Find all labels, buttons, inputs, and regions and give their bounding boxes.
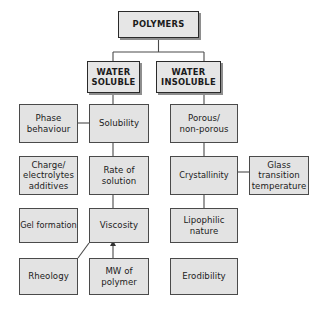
node-gel-formation[interactable]: Gel formation bbox=[19, 208, 78, 243]
node-porous-non-porous[interactable]: Porous/ non-porous bbox=[170, 104, 238, 143]
flowchart-diagram: POLYMERS WATER SOLUBLE WATER INSOLUBLE P… bbox=[0, 0, 317, 312]
node-polymers[interactable]: POLYMERS bbox=[118, 11, 199, 38]
node-crystallinity-label: Crystallinity bbox=[179, 170, 228, 181]
node-charge-electrolytes-additives[interactable]: Charge/ electrolytes additives bbox=[19, 156, 78, 195]
node-porous-non-porous-label: Porous/ non-porous bbox=[180, 113, 229, 134]
node-mw-of-polymer-label: MW of polymer bbox=[101, 266, 137, 287]
node-solubility-label: Solubility bbox=[99, 118, 139, 129]
node-rate-of-solution-label: Rate of solution bbox=[102, 165, 136, 186]
node-solubility[interactable]: Solubility bbox=[89, 104, 149, 143]
node-rheology-label: Rheology bbox=[28, 271, 69, 282]
node-lipophilic-nature[interactable]: Lipophilic nature bbox=[170, 208, 238, 243]
node-phase-behaviour[interactable]: Phase behaviour bbox=[19, 104, 78, 143]
node-water-insoluble-label: WATER INSOLUBLE bbox=[161, 67, 216, 88]
node-viscosity[interactable]: Viscosity bbox=[89, 208, 149, 243]
node-water-soluble[interactable]: WATER SOLUBLE bbox=[87, 61, 140, 93]
node-glass-transition-temperature-label: Glass transition temperature bbox=[252, 160, 307, 192]
connector-rheology-to-viscosity bbox=[78, 243, 89, 258]
node-mw-of-polymer[interactable]: MW of polymer bbox=[89, 258, 149, 295]
node-erodibility[interactable]: Erodibility bbox=[170, 258, 238, 295]
node-phase-behaviour-label: Phase behaviour bbox=[27, 113, 71, 134]
node-rate-of-solution[interactable]: Rate of solution bbox=[89, 156, 149, 195]
node-lipophilic-nature-label: Lipophilic nature bbox=[183, 215, 224, 236]
node-crystallinity[interactable]: Crystallinity bbox=[170, 156, 238, 195]
node-viscosity-label: Viscosity bbox=[100, 220, 138, 231]
node-gel-formation-label: Gel formation bbox=[20, 220, 77, 231]
node-water-soluble-label: WATER SOLUBLE bbox=[91, 67, 135, 88]
node-rheology[interactable]: Rheology bbox=[19, 258, 78, 295]
node-polymers-label: POLYMERS bbox=[133, 19, 185, 30]
node-glass-transition-temperature[interactable]: Glass transition temperature bbox=[249, 156, 309, 195]
node-erodibility-label: Erodibility bbox=[182, 271, 226, 282]
node-charge-electrolytes-additives-label: Charge/ electrolytes additives bbox=[23, 160, 74, 192]
node-water-insoluble[interactable]: WATER INSOLUBLE bbox=[156, 61, 221, 93]
